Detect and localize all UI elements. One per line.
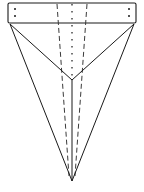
right-inner-solid-edge	[72, 24, 134, 80]
corner-dot-markers	[14, 8, 130, 17]
dot-top-left-upper	[14, 8, 16, 10]
left-outer-solid-edge	[10, 24, 72, 181]
left-inner-solid-edge	[10, 24, 72, 80]
dot-top-right-lower	[128, 15, 130, 17]
dot-top-right-upper	[128, 8, 130, 10]
right-dashed-fold-line	[75, 4, 87, 176]
right-outer-solid-edge	[72, 24, 134, 181]
left-dashed-fold-line	[57, 4, 69, 176]
dot-top-left-lower	[14, 15, 16, 17]
technical-drawing-canvas	[0, 0, 144, 192]
figure-container	[0, 0, 144, 192]
top-bar-rectangle	[8, 3, 136, 23]
